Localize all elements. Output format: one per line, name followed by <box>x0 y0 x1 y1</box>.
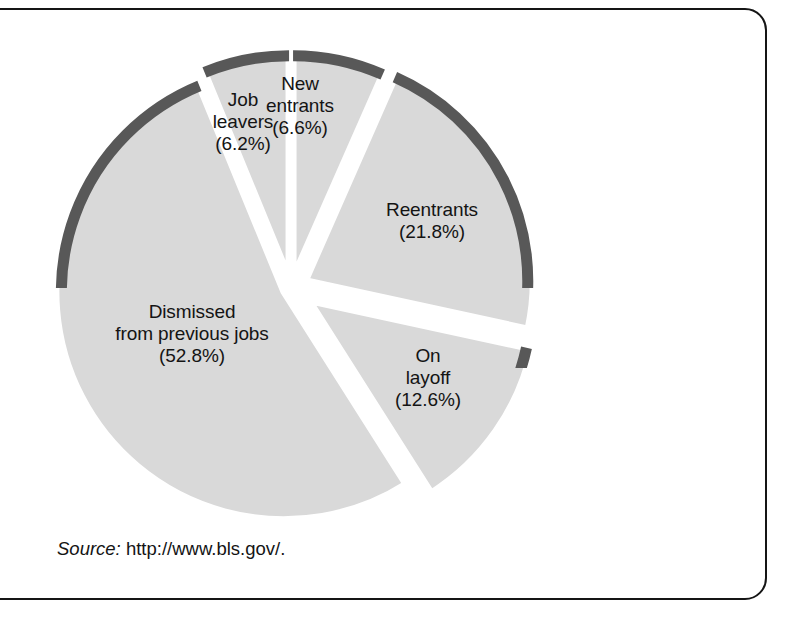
figure-container: New entrants (6.6%) Reentrants (21.8%) O… <box>0 0 804 617</box>
source-caption: Source: http://www.bls.gov/. <box>57 538 285 560</box>
slice-label-job-leavers: Job leavers (6.2%) <box>133 89 353 155</box>
pie-chart: New entrants (6.6%) Reentrants (21.8%) O… <box>0 0 804 617</box>
slice-label-on-layoff: On layoff (12.6%) <box>318 345 538 411</box>
source-label: Source: <box>57 538 121 559</box>
slice-label-dismissed: Dismissed from previous jobs (52.8%) <box>82 301 302 367</box>
slice-label-reentrants: Reentrants (21.8%) <box>322 199 542 243</box>
source-url-text: http://www.bls.gov/. <box>126 538 285 559</box>
